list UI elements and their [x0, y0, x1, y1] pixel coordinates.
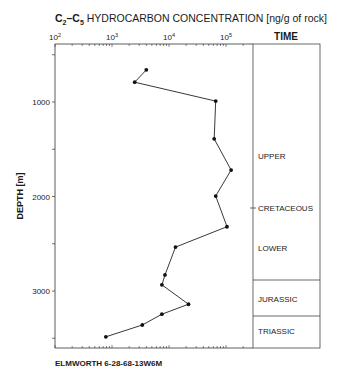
- well-caption: ELMWORTH 6-28-68-13W6M: [55, 359, 162, 368]
- data-point: [225, 225, 229, 229]
- x-tick-label: 102: [49, 32, 61, 42]
- y-tick-label: 2000: [32, 193, 50, 202]
- y-tick-label: 1000: [32, 98, 50, 107]
- time-label-triassic: TRIASSIC: [258, 327, 295, 336]
- data-point: [144, 68, 148, 72]
- time-label-jurassic: JURASSIC: [258, 295, 298, 304]
- data-point: [163, 273, 167, 277]
- data-point: [104, 335, 108, 339]
- data-point: [214, 194, 218, 198]
- time-header: TIME: [274, 31, 298, 42]
- hydrocarbon-depth-chart: C2–C5 HYDROCARBON CONCENTRATION [ng/g of…: [0, 0, 338, 382]
- data-point: [187, 302, 191, 306]
- x-tick-label: 103: [106, 32, 118, 42]
- data-point: [174, 245, 178, 249]
- series-line: [106, 70, 231, 337]
- data-point: [133, 80, 137, 84]
- data-point: [212, 137, 216, 141]
- y-tick-label: 3000: [32, 287, 50, 296]
- data-point: [140, 323, 144, 327]
- data-point: [160, 312, 164, 316]
- series-points: [104, 68, 233, 339]
- data-point: [214, 99, 218, 103]
- y-axis-label: DEPTH [m]: [15, 172, 25, 219]
- y-axis-ticks: 100020003000: [32, 55, 55, 339]
- data-point: [229, 168, 233, 172]
- data-point: [160, 283, 164, 287]
- x-axis-tick-labels: 102103104105: [49, 32, 232, 42]
- chart-title: C2–C5 HYDROCARBON CONCENTRATION [ng/g of…: [55, 12, 327, 26]
- x-tick-label: 105: [220, 32, 232, 42]
- time-label-lower: LOWER: [258, 244, 288, 253]
- time-label-upper: UPPER: [258, 152, 286, 161]
- x-tick-label: 104: [163, 32, 175, 42]
- time-label-cretaceous: CRETACEOUS: [258, 204, 313, 213]
